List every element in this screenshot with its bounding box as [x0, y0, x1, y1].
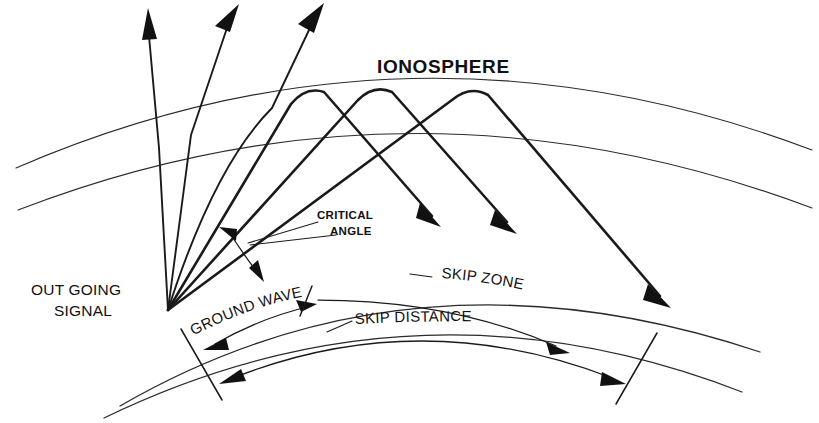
skip-distance-tick-left	[181, 329, 222, 400]
skip-zone-label: SKIP ZONE	[441, 264, 526, 293]
outgoing-signal-label-line1: OUT GOING	[31, 281, 121, 298]
ionosphere-lower-boundary	[18, 133, 812, 210]
ionosphere-upper-boundary	[16, 78, 812, 168]
escaping-ray-3	[168, 3, 324, 310]
critical-angle-arrowhead-left	[219, 227, 237, 241]
skip-distance-arrowhead-left	[219, 369, 246, 384]
escaping-ray-2-arrowhead	[215, 4, 239, 32]
skip-distance-label-text: SKIP DISTANCE	[354, 307, 472, 327]
critical-angle-indicator	[219, 222, 336, 282]
ground-wave-label: GROUND WAVE	[187, 283, 303, 338]
ground-wave-arrowhead-left	[203, 338, 229, 350]
ionosphere-label: IONOSPHERE	[377, 56, 510, 77]
ground-wave-arrowhead-right	[296, 300, 317, 312]
escaping-ray-1	[142, 8, 168, 310]
skip-distance-tick-right	[616, 333, 657, 404]
reflected-ray-3-arrowhead	[643, 284, 671, 308]
critical-angle-label-line2: ANGLE	[330, 225, 372, 237]
skip-zone-leader	[410, 274, 432, 277]
reflected-ray-1-arrowhead	[416, 203, 441, 227]
escaping-ray-1-arrowhead	[142, 8, 157, 40]
skip-distance-arrowhead-right	[600, 372, 626, 386]
skip-distance-label: SKIP DISTANCE	[354, 307, 472, 327]
critical-angle-label-line1: CRITICAL	[317, 209, 373, 221]
ground-wave-boundary-tick	[300, 286, 312, 316]
ionosphere-propagation-diagram: CRITICAL ANGLE IONOSPHERE OUT GOING SIGN…	[0, 0, 819, 423]
skip-zone-label-text: SKIP ZONE	[441, 264, 526, 293]
ground-wave-label-text: GROUND WAVE	[187, 283, 303, 338]
earth-surface-lower-arc	[104, 335, 742, 418]
diagram-canvas: CRITICAL ANGLE IONOSPHERE OUT GOING SIGN…	[0, 0, 819, 423]
escaping-ray-3-arrowhead	[298, 3, 324, 33]
reflected-ray-1	[168, 91, 441, 311]
reflected-ray-2-arrowhead	[490, 210, 517, 234]
outgoing-signal-label-line2: SIGNAL	[54, 302, 112, 319]
